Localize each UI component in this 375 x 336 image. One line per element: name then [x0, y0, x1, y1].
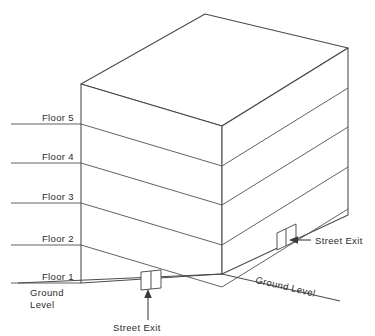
label-ground-level-left-line2: Level — [30, 299, 54, 310]
label-floor-2: Floor 2 — [42, 233, 74, 244]
label-ground-level-right: Ground Level — [255, 274, 317, 298]
label-street-exit-right: Street Exit — [315, 235, 363, 246]
label-street-exit-front: Street Exit — [113, 322, 161, 333]
label-floor-1: Floor 1 — [42, 271, 74, 282]
callout-street-exit-front — [144, 289, 152, 320]
label-ground-level-left: Ground Level — [30, 287, 64, 310]
label-floor-5: Floor 5 — [42, 112, 74, 123]
callout-front-arrowhead — [144, 289, 152, 298]
label-ground-level-left-line1: Ground — [30, 287, 64, 298]
building-isometric-svg: Floor 5 Floor 4 Floor 3 Floor 2 Floor 1 … — [0, 0, 375, 336]
floor-leader-lines — [11, 124, 81, 283]
building-diagram: Floor 5 Floor 4 Floor 3 Floor 2 Floor 1 … — [0, 0, 375, 336]
label-floor-4: Floor 4 — [42, 151, 74, 162]
label-floor-3: Floor 3 — [42, 191, 74, 202]
street-exit-door-front — [141, 270, 161, 290]
floor-label-group: Floor 5 Floor 4 Floor 3 Floor 2 Floor 1 — [42, 112, 74, 282]
